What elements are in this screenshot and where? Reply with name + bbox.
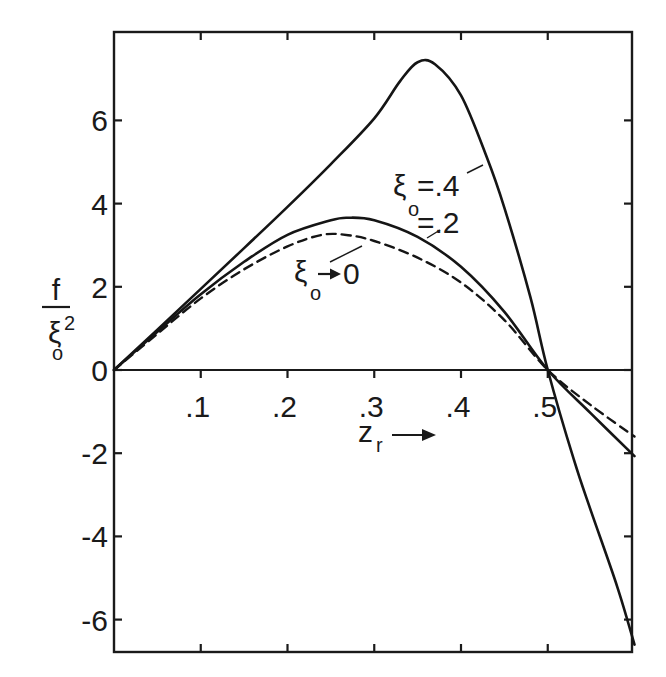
ann-0-value: 0 bbox=[343, 257, 360, 290]
x-axis-label: z r bbox=[358, 415, 436, 456]
ann-04-xi: ξ bbox=[393, 169, 406, 202]
ann-04-value: =.4 bbox=[417, 169, 460, 202]
ann-04-leader bbox=[467, 165, 483, 173]
y-tick-label: -2 bbox=[81, 437, 108, 470]
y-tick-label: 4 bbox=[91, 188, 108, 221]
y-tick-label: -6 bbox=[81, 604, 108, 637]
ann-02-value: =.2 bbox=[417, 206, 460, 239]
y-label-sub: o bbox=[52, 342, 63, 364]
y-tick-label: 2 bbox=[91, 271, 108, 304]
x-label-z: z bbox=[358, 415, 373, 448]
curve-xi-04 bbox=[114, 60, 635, 645]
y-tick-label: 0 bbox=[91, 354, 108, 387]
x-tick-label: .4 bbox=[445, 390, 470, 423]
curves bbox=[114, 60, 635, 645]
chart-figure: .1.2.3.4.5-6-4-20246 f ξ o 2 z r ξ o =.4… bbox=[0, 0, 666, 677]
y-axis-label: f ξ o 2 bbox=[42, 273, 75, 364]
ann-0-xi: ξ bbox=[294, 255, 307, 288]
annotation-xi-0: ξ o 0 bbox=[294, 246, 362, 304]
y-label-numerator: f bbox=[52, 273, 61, 306]
x-tick-label: .1 bbox=[185, 390, 210, 423]
ann-0-sub: o bbox=[310, 282, 321, 304]
y-tick-label: 6 bbox=[91, 104, 108, 137]
arrow-right-icon bbox=[330, 269, 341, 280]
y-label-sup: 2 bbox=[64, 312, 75, 334]
annotation-xi-02: =.2 bbox=[417, 206, 460, 239]
axis-ticks bbox=[114, 32, 632, 652]
x-tick-label: .2 bbox=[272, 390, 297, 423]
plot-frame bbox=[114, 32, 632, 652]
arrow-right-icon bbox=[422, 429, 436, 441]
y-tick-label: -4 bbox=[81, 520, 108, 553]
x-label-sub: r bbox=[376, 434, 383, 456]
